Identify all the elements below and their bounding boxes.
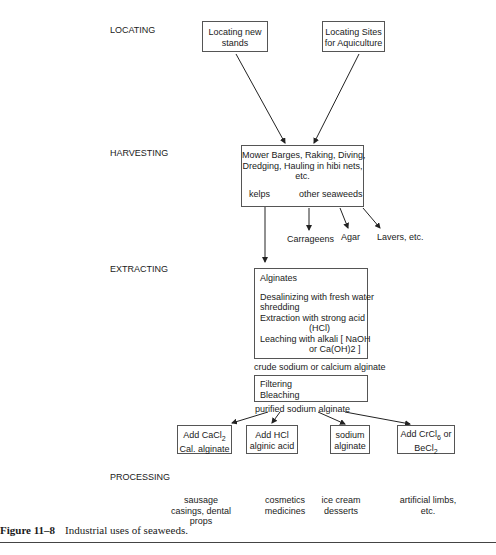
product-box-chromium-beryllium: Add CrCl6 or BeCl2 <box>397 425 455 454</box>
locating-aquaculture-box: Locating Sites for Aquiculture <box>322 21 385 52</box>
product-lavers: Lavers, etc. <box>377 232 424 243</box>
use-ice-cream: ice cream desserts <box>316 495 366 516</box>
use-sausage-casings: sausage casings, dental props <box>170 495 232 527</box>
caption-rule <box>0 542 496 543</box>
stage-label-extracting: EXTRACTING <box>110 264 168 275</box>
other-seaweeds-label: other seaweeds <box>299 189 363 200</box>
product-agar: Agar <box>341 232 360 243</box>
alginates-title: Alginates <box>260 273 367 284</box>
use-artificial-limbs: artificial limbs, etc. <box>395 495 461 516</box>
purified-alginate-label: purified sodium alginate <box>255 404 350 415</box>
kelps-label: kelps <box>249 189 270 200</box>
stage-label-processing: PROCESSING <box>110 472 170 483</box>
alginates-process-box: Alginates Desalinizing with fresh water … <box>254 268 368 359</box>
stage-label-harvesting: HARVESTING <box>110 148 168 159</box>
product-box-alginic-acid: Add HCl alginic acid <box>246 425 298 454</box>
product-carrageens: Carrageens <box>287 234 334 245</box>
connector-arrows <box>0 0 496 555</box>
filtering-bleaching-box: Filtering Bleaching <box>254 375 368 402</box>
stage-label-locating: LOCATING <box>110 25 155 36</box>
product-box-sodium-alginate: sodium alginate <box>330 425 370 454</box>
figure-caption: Figure 11–8Industrial uses of seaweeds. <box>0 524 188 536</box>
crude-alginate-label: crude sodium or calcium alginate <box>254 362 386 373</box>
figure-text: Industrial uses of seaweeds. <box>65 524 188 536</box>
product-box-calcium-alginate: Add CaCl2 Cal. alginate <box>177 425 232 454</box>
figure-label: Figure 11–8 <box>0 524 55 536</box>
use-cosmetics: cosmetics medicines <box>260 495 310 516</box>
locating-new-stands-box: Locating new stands <box>202 21 268 52</box>
harvesting-methods-box: Mower Barges, Raking, Diving, Dredging, … <box>241 145 364 207</box>
